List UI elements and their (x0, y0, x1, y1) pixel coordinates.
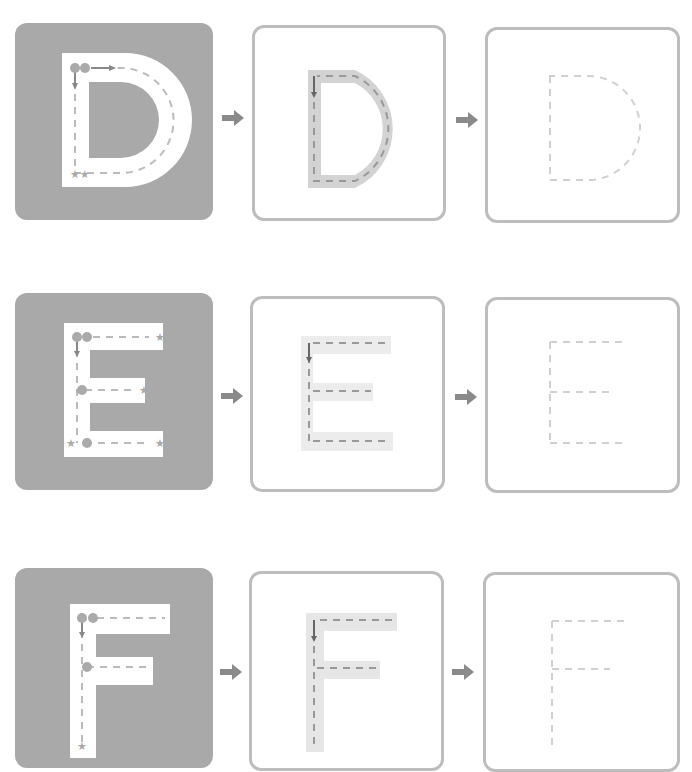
svg-text:★: ★ (139, 384, 149, 397)
letter-f-dashed-glyph (486, 575, 677, 769)
letter-d-shaded-glyph (255, 28, 443, 218)
star-icon: ★★ (70, 168, 90, 181)
letter-d-dashed-card (485, 27, 680, 223)
letter-d-guide-glyph: ★★ (15, 23, 213, 220)
letter-f-guide-glyph: ★★★ (15, 568, 213, 768)
letter-e-dashed-card (485, 297, 680, 493)
letter-e-shaded-card (250, 296, 445, 492)
letter-e-shaded-glyph (253, 299, 442, 489)
arrow-right-icon (455, 389, 477, 405)
letter-e-model-card: E ★★★★ (15, 293, 213, 490)
arrow-right-icon (452, 664, 474, 680)
letter-d-model-card: D ★★ (15, 23, 213, 220)
letter-d-shaded-card (252, 25, 446, 221)
arrow-right-icon (220, 664, 242, 680)
svg-text:★: ★ (66, 437, 76, 450)
arrow-right-icon (221, 388, 243, 404)
letter-f-model-card: F ★★★ (15, 568, 213, 768)
letter-d-dashed-glyph (488, 30, 677, 220)
letter-f-shaded-glyph (252, 574, 441, 768)
svg-text:★: ★ (77, 740, 87, 753)
svg-text:★: ★ (171, 612, 181, 625)
letter-e-guide-glyph: ★★★★ (15, 293, 213, 490)
letter-e-dashed-glyph (488, 300, 677, 490)
arrow-right-icon (456, 112, 478, 128)
arrow-right-icon (222, 110, 244, 126)
letter-f-shaded-card (249, 571, 444, 771)
svg-text:★: ★ (155, 331, 165, 344)
svg-text:★: ★ (153, 661, 163, 674)
letter-f-dashed-card (483, 572, 680, 772)
svg-text:★: ★ (155, 437, 165, 450)
svg-text:★★: ★★ (70, 168, 90, 181)
